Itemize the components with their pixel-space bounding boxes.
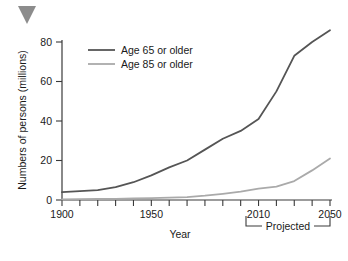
series-line bbox=[62, 159, 330, 200]
y-tick-label: 0 bbox=[46, 194, 52, 206]
y-axis-ticks bbox=[56, 42, 62, 200]
chart-figure: 020406080 1900195020102050 Numbers of pe… bbox=[0, 0, 348, 261]
legend-label: Age 65 or older bbox=[121, 44, 193, 56]
series-line bbox=[62, 30, 330, 192]
y-tick-label: 20 bbox=[40, 154, 52, 166]
y-tick-label: 40 bbox=[40, 115, 52, 127]
legend: Age 65 or olderAge 85 or older bbox=[88, 44, 193, 70]
x-tick-label: 2010 bbox=[247, 208, 271, 220]
line-chart: 020406080 1900195020102050 Numbers of pe… bbox=[0, 0, 348, 261]
y-axis-tick-labels: 020406080 bbox=[40, 36, 52, 206]
y-tick-label: 80 bbox=[40, 36, 52, 48]
series-lines bbox=[62, 30, 330, 199]
x-axis-title: Year bbox=[169, 228, 191, 240]
x-axis-ticks bbox=[62, 200, 330, 206]
x-tick-label: 1900 bbox=[50, 208, 74, 220]
legend-label: Age 85 or older bbox=[121, 58, 193, 70]
x-axis-tick-labels: 1900195020102050 bbox=[50, 208, 342, 220]
y-axis-title: Numbers of persons (millions) bbox=[16, 50, 28, 189]
projected-label: Projected bbox=[266, 220, 311, 232]
x-tick-label: 1950 bbox=[140, 208, 164, 220]
y-tick-label: 60 bbox=[40, 75, 52, 87]
